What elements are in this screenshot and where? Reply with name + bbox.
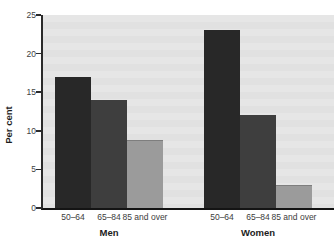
y-tick-mark bbox=[36, 53, 41, 55]
y-tick-mark bbox=[36, 14, 41, 16]
y-tick-mark bbox=[36, 207, 41, 209]
x-category-label-women-0: 50–64 bbox=[210, 213, 234, 222]
bar-men-1 bbox=[91, 100, 127, 208]
y-tick-label-5: 5 bbox=[14, 165, 36, 174]
plot-area bbox=[41, 15, 334, 210]
y-tick-mark bbox=[36, 169, 41, 171]
y-tick-mark bbox=[36, 91, 41, 93]
x-category-label-men-0: 50–64 bbox=[61, 213, 85, 222]
y-tick-mark bbox=[36, 130, 41, 132]
y-tick-label-0: 0 bbox=[14, 204, 36, 213]
bar-men-0 bbox=[55, 77, 91, 208]
y-tick-label-25: 25 bbox=[14, 11, 36, 20]
bar-men-2 bbox=[127, 140, 163, 208]
y-tick-label-10: 10 bbox=[14, 127, 36, 136]
bar-women-0 bbox=[204, 30, 240, 208]
y-axis-title: Per cent bbox=[3, 70, 15, 180]
y-tick-label-20: 20 bbox=[14, 49, 36, 58]
x-category-label-women-2: 85 and over bbox=[272, 213, 317, 222]
x-category-label-women-1: 65–84 bbox=[246, 213, 270, 222]
bar-women-2 bbox=[276, 185, 312, 208]
group-label-women: Women bbox=[241, 228, 275, 238]
x-category-label-men-2: 85 and over bbox=[123, 213, 168, 222]
group-label-men: Men bbox=[100, 228, 119, 238]
y-tick-label-15: 15 bbox=[14, 88, 36, 97]
bar-women-1 bbox=[240, 115, 276, 208]
x-category-label-men-1: 65–84 bbox=[97, 213, 121, 222]
bar-chart: Per cent 051015202550–6465–8485 and over… bbox=[0, 0, 334, 249]
